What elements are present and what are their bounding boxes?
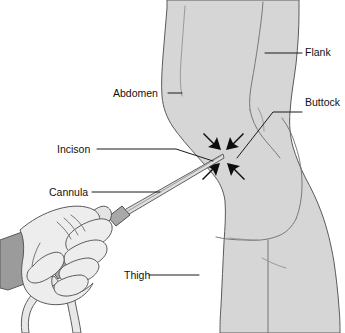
label-flank: Flank <box>305 46 331 58</box>
label-buttock: Buttock <box>305 96 341 108</box>
illustration-canvas: Flank Abdomen Buttock Incison Cannula Th… <box>0 0 345 333</box>
illustration-figure: Flank Abdomen Buttock Incison Cannula Th… <box>0 0 345 333</box>
label-thigh: Thigh <box>124 269 150 281</box>
label-incison: Incison <box>57 143 90 155</box>
label-cannula: Cannula <box>49 186 88 198</box>
label-abdomen: Abdomen <box>113 87 158 99</box>
